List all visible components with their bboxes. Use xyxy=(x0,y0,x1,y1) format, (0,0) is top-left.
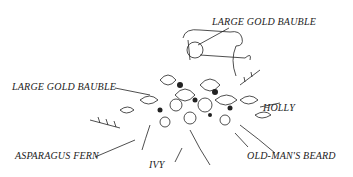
label-large-gold-bauble-top: LARGE GOLD BAUBLE xyxy=(212,16,316,27)
label-old-mans-beard: OLD-MAN'S BEARD xyxy=(247,150,336,161)
label-large-gold-bauble-left: LARGE GOLD BAUBLE xyxy=(12,81,116,92)
label-holly: HOLLY xyxy=(263,102,295,113)
label-asparagus-fern: ASPARAGUS FERN xyxy=(15,150,99,161)
label-ivy: IVY xyxy=(149,159,165,170)
